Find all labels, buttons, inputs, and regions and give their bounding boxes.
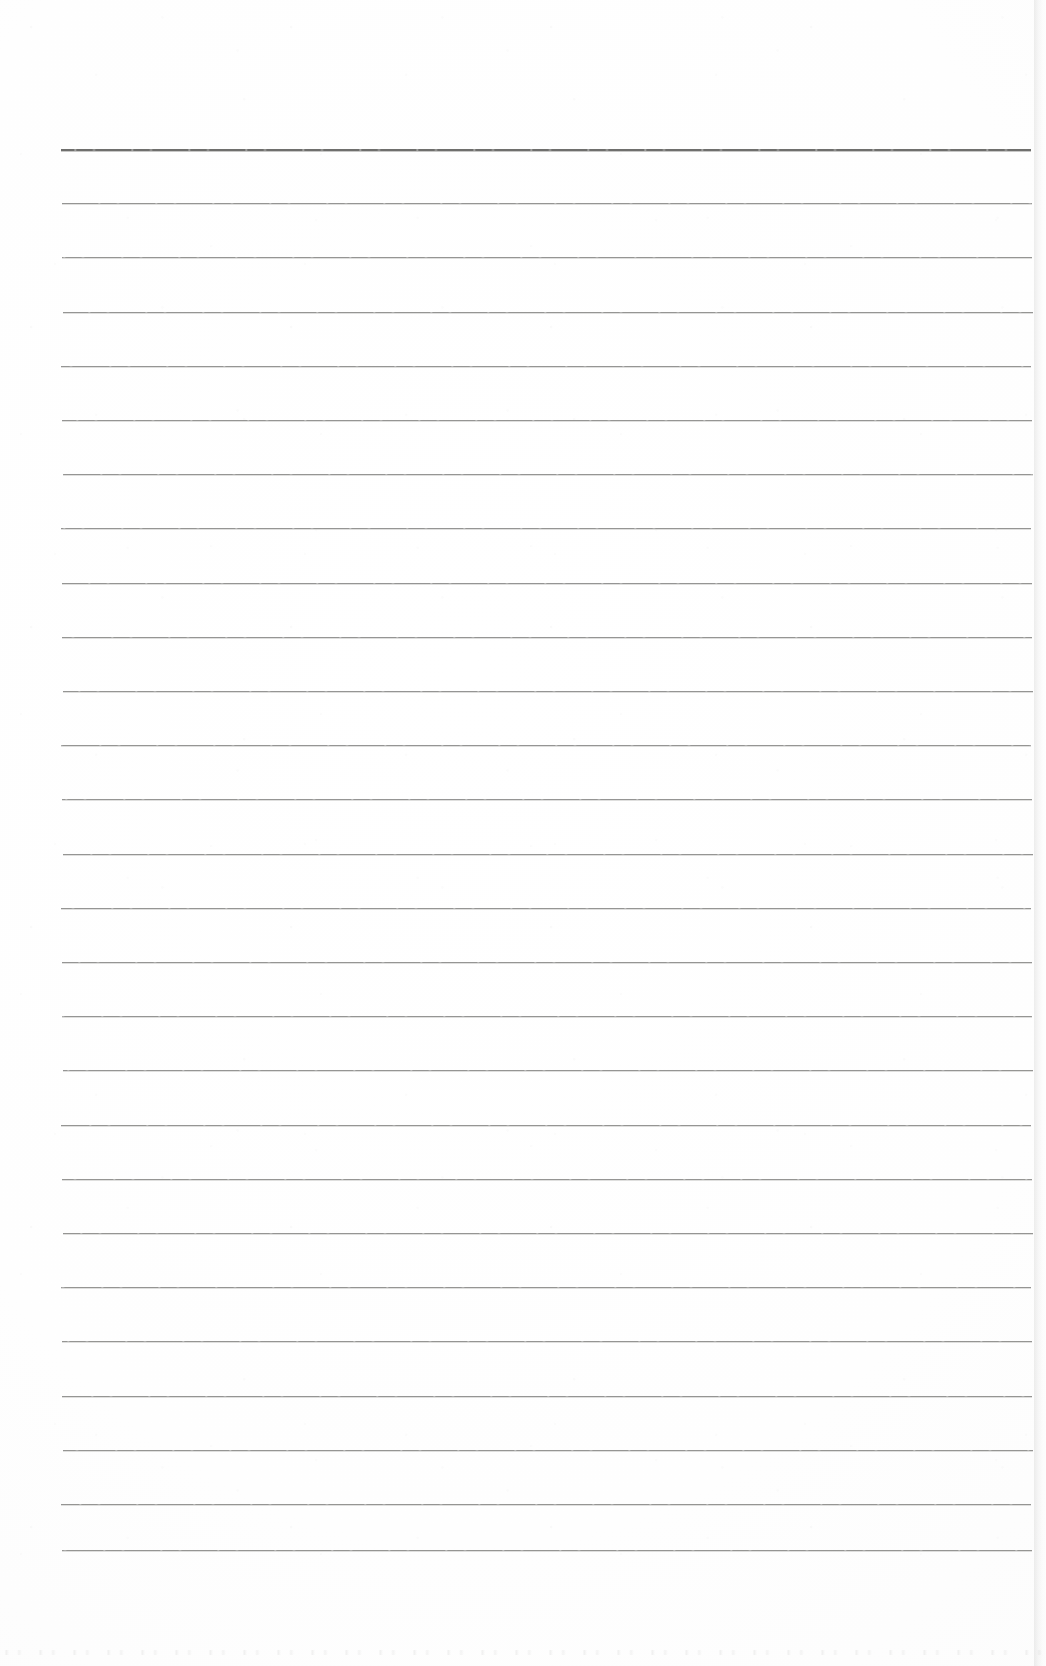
scan-noise-texture [0, 0, 1046, 1666]
rule-line [62, 1341, 1032, 1342]
page-right-edge-shadow [1034, 0, 1046, 1666]
rule-line [62, 203, 1032, 204]
rule-line [62, 257, 1032, 258]
rule-line [61, 745, 1031, 746]
rule-line [62, 962, 1032, 963]
header-rule-line [61, 149, 1031, 151]
rule-line [61, 1125, 1031, 1126]
rule-line [62, 637, 1032, 638]
rule-line [61, 908, 1031, 909]
rule-line [63, 1233, 1033, 1234]
rule-line [61, 1504, 1031, 1505]
rule-line [63, 1450, 1033, 1451]
rule-line [62, 583, 1032, 584]
rule-line [62, 799, 1032, 800]
rule-line [62, 1016, 1032, 1017]
rule-line [63, 312, 1033, 313]
paper-surface [0, 0, 1046, 1666]
rule-line [62, 1396, 1032, 1397]
scanned-page [0, 0, 1046, 1666]
rule-line [63, 691, 1033, 692]
rule-line [61, 1287, 1031, 1288]
rule-line [63, 854, 1033, 855]
rule-line [62, 420, 1032, 421]
rule-line [61, 366, 1031, 367]
rule-line [63, 474, 1033, 475]
rule-line [63, 1070, 1033, 1071]
rule-line [62, 1179, 1032, 1180]
bottom-scan-speckle [0, 1636, 1046, 1666]
rule-line [62, 1550, 1032, 1551]
rule-line [61, 528, 1031, 529]
